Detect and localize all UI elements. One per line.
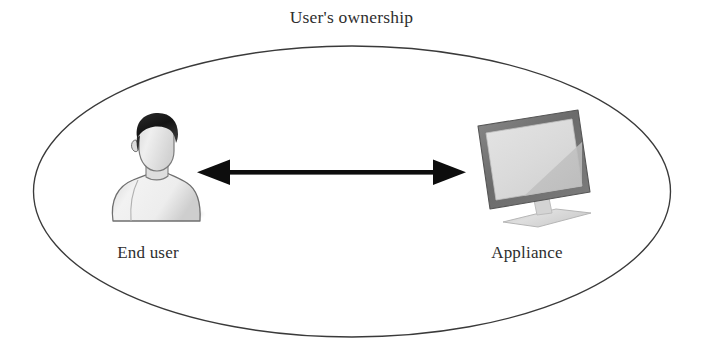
appliance-label: Appliance	[437, 243, 617, 263]
diagram-canvas: User's ownership End user Appliance	[0, 0, 703, 348]
end-user-label: End user	[58, 243, 238, 263]
arrow-shaft	[226, 170, 438, 175]
bidirectional-arrow	[197, 160, 466, 186]
arrow-head-left	[197, 160, 230, 186]
diagram-graphics	[0, 0, 703, 348]
arrow-head-right	[433, 160, 466, 186]
diagram-title: User's ownership	[0, 7, 703, 28]
person-bust-icon	[112, 113, 207, 223]
monitor-icon	[478, 110, 591, 227]
